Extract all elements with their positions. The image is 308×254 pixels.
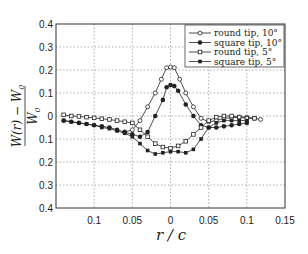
marker-filled-square — [108, 127, 112, 131]
marker-open-square — [153, 142, 157, 146]
marker-open-square — [230, 114, 234, 118]
marker-open-square — [62, 113, 66, 117]
marker-filled-square — [198, 60, 202, 64]
marker-open-square — [85, 115, 89, 119]
marker-open-square — [184, 140, 188, 144]
marker-filled-square — [237, 119, 241, 123]
marker-open-square — [146, 135, 150, 139]
y-tick-label: 0.1 — [39, 134, 53, 145]
marker-filled-square — [138, 142, 142, 146]
marker-open-square — [161, 145, 165, 149]
marker-filled-square — [207, 126, 211, 130]
x-axis-ticks: 0.10.0500.050.10.15 — [87, 215, 295, 226]
marker-open-square — [131, 121, 135, 125]
line-chart: 0.10.0500.050.10.15 0.40.30.20.100.10.20… — [0, 0, 308, 254]
marker-filled-circle — [222, 124, 227, 129]
marker-open-circle — [153, 91, 157, 95]
marker-open-square — [192, 133, 196, 137]
marker-open-circle — [165, 66, 169, 70]
marker-open-circle — [198, 31, 202, 35]
marker-filled-square — [69, 120, 73, 124]
y-axis-label: W(r) − W0 W0 — [10, 85, 42, 148]
data-series — [61, 65, 262, 156]
legend-label: round tip, 10° — [214, 28, 278, 38]
marker-filled-square — [176, 150, 180, 154]
x-tick-label: 0.05 — [123, 215, 143, 226]
marker-open-square — [100, 117, 104, 121]
marker-filled-square — [115, 129, 119, 133]
marker-open-circle — [130, 128, 134, 132]
marker-filled-square — [161, 151, 165, 155]
series-line — [64, 121, 247, 154]
marker-filled-circle — [145, 130, 150, 135]
marker-open-circle — [169, 65, 173, 69]
x-tick-label: 0 — [168, 215, 174, 226]
y-tick-label: 0.4 — [39, 19, 53, 30]
marker-filled-square — [100, 126, 104, 130]
marker-filled-circle — [164, 85, 169, 90]
marker-filled-circle — [138, 134, 143, 139]
legend-label: square tip, 5° — [214, 57, 276, 67]
y-tick-label: 0.3 — [39, 42, 53, 53]
marker-open-square — [222, 114, 226, 118]
marker-filled-circle — [172, 84, 177, 89]
marker-open-circle — [199, 116, 203, 120]
marker-open-circle — [172, 66, 176, 70]
marker-open-square — [237, 115, 241, 119]
marker-open-square — [123, 120, 127, 124]
marker-open-square — [176, 144, 180, 148]
marker-filled-square — [215, 121, 219, 125]
series-filled-square — [62, 119, 249, 156]
marker-open-square — [215, 115, 219, 119]
y-axis-ticks: 0.40.30.20.100.10.20.30.4 — [39, 19, 53, 214]
marker-open-circle — [259, 117, 263, 121]
x-axis-label: r / c — [156, 226, 187, 244]
marker-open-square — [138, 128, 142, 132]
marker-filled-square — [230, 119, 234, 123]
marker-open-square — [92, 116, 96, 120]
marker-filled-circle — [214, 125, 219, 130]
marker-filled-square — [146, 149, 150, 153]
marker-open-square — [253, 117, 257, 121]
marker-filled-circle — [183, 102, 188, 107]
marker-filled-square — [123, 131, 127, 135]
legend: round tip, 10°square tip, 10°round tip, … — [185, 25, 284, 67]
marker-filled-circle — [198, 40, 203, 45]
marker-filled-circle — [237, 122, 242, 127]
y-axis-label-numerator: W(r) − W0 — [10, 85, 26, 148]
marker-filled-square — [222, 119, 226, 123]
x-tick-label: 0.15 — [275, 215, 295, 226]
marker-filled-square — [245, 119, 249, 123]
marker-open-circle — [191, 105, 195, 109]
x-tick-label: 0.1 — [240, 215, 254, 226]
marker-filled-square — [184, 151, 188, 155]
marker-filled-circle — [191, 114, 196, 119]
marker-filled-circle — [229, 123, 234, 128]
marker-filled-circle — [161, 98, 166, 103]
marker-open-square — [199, 126, 203, 130]
series-open-square — [62, 113, 256, 150]
marker-filled-circle — [153, 114, 158, 119]
y-tick-label: 0.1 — [39, 88, 53, 99]
y-tick-label: 0.2 — [39, 65, 53, 76]
x-tick-label: 0.05 — [199, 215, 219, 226]
legend-label: round tip, 5° — [214, 47, 272, 57]
y-tick-label: 0.3 — [39, 180, 53, 191]
legend-label: square tip, 10° — [214, 38, 282, 48]
marker-filled-square — [62, 119, 66, 123]
marker-open-square — [115, 119, 119, 123]
marker-filled-square — [199, 137, 203, 141]
marker-open-circle — [146, 105, 150, 109]
marker-filled-circle — [176, 88, 181, 93]
marker-filled-square — [77, 121, 81, 125]
marker-open-square — [108, 118, 112, 122]
y-tick-label: 0 — [47, 111, 53, 122]
marker-open-square — [77, 115, 81, 119]
y-tick-label: 0.2 — [39, 157, 53, 168]
x-tick-label: 0.1 — [87, 215, 101, 226]
marker-filled-square — [153, 152, 157, 156]
y-axis-label-denominator: W0 — [26, 107, 42, 124]
marker-open-circle — [138, 119, 142, 123]
marker-filled-square — [85, 122, 89, 126]
marker-open-square — [198, 50, 202, 54]
